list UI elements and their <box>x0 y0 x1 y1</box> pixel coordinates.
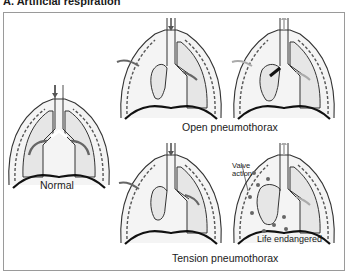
panel-open-inhale <box>115 18 225 120</box>
annotation-life-endangered: Life endangered <box>257 234 322 244</box>
caption-normal: Normal <box>40 179 74 191</box>
panel-open-exhale <box>228 18 338 120</box>
figure-title: A. Artificial respiration <box>3 0 121 7</box>
caption-open-pneumothorax: Open pneumothorax <box>182 121 278 133</box>
caption-tension-pneumothorax: Tension pneumothorax <box>172 252 278 264</box>
annotation-valve-action: Valve action <box>232 162 252 178</box>
panel-tension-exhale <box>228 143 338 245</box>
panel-normal <box>3 85 115 190</box>
panel-tension-inhale <box>115 143 225 245</box>
annotation-valve-line2: action <box>232 170 252 178</box>
